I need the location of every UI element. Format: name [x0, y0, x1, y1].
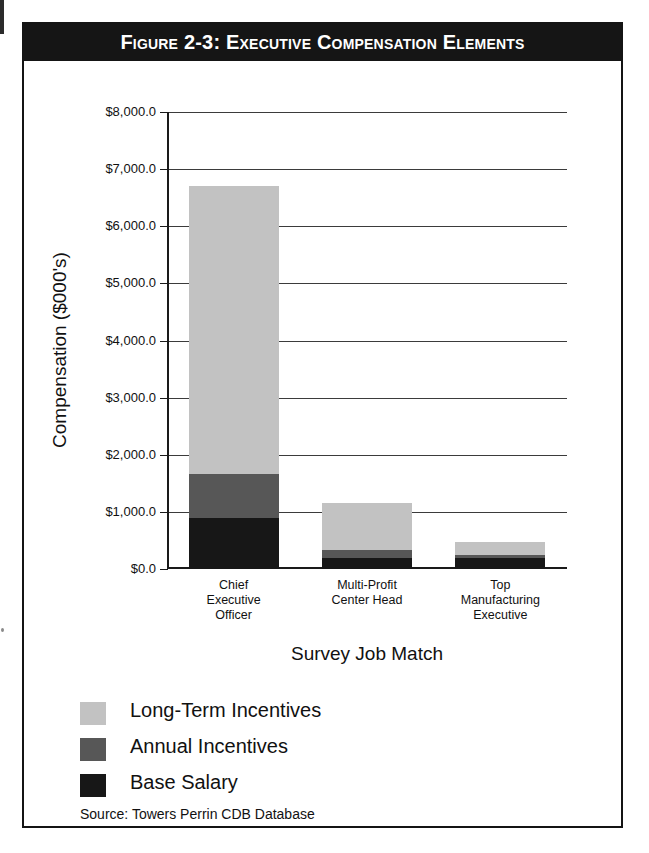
bar-segment	[189, 186, 279, 473]
legend-swatch	[80, 738, 106, 761]
chart-legend: Long-Term IncentivesAnnual IncentivesBas…	[80, 696, 580, 804]
legend-item: Base Salary	[80, 768, 580, 804]
bar-stack	[455, 112, 545, 569]
figure-container: Figure 2-3: Executive Compensation Eleme…	[22, 22, 623, 828]
y-axis-tick-label: $7,000.0	[60, 162, 156, 175]
bar-stack	[189, 112, 279, 569]
bar-segment	[455, 542, 545, 555]
y-axis-tick-label: $2,000.0	[60, 448, 156, 461]
y-axis-tick-label: $3,000.0	[60, 391, 156, 404]
source-note: Source: Towers Perrin CDB Database	[80, 806, 315, 822]
y-axis-tick-label: $0.0	[60, 562, 156, 575]
x-axis-title: Survey Job Match	[167, 643, 567, 665]
bar-segment	[189, 474, 279, 518]
y-axis-tick	[160, 569, 168, 570]
bar-stack	[322, 112, 412, 569]
y-axis-tick-label: $5,000.0	[60, 276, 156, 289]
y-axis-tick-label: $4,000.0	[60, 334, 156, 347]
y-axis-title: Compensation ($000's)	[49, 120, 71, 580]
bar-segment	[189, 518, 279, 569]
legend-swatch	[80, 774, 106, 797]
legend-item: Long-Term Incentives	[80, 696, 580, 732]
x-axis-category-label: ChiefExecutiveOfficer	[159, 578, 309, 623]
bar-segment	[455, 555, 545, 558]
legend-label: Long-Term Incentives	[130, 699, 321, 722]
legend-label: Annual Incentives	[130, 735, 288, 758]
y-axis-tick-label: $1,000.0	[60, 505, 156, 518]
legend-item: Annual Incentives	[80, 732, 580, 768]
x-axis-category-label: Multi-ProfitCenter Head	[292, 578, 442, 608]
bar-segment	[455, 558, 545, 569]
legend-swatch	[80, 702, 106, 725]
y-axis-tick-label: $6,000.0	[60, 219, 156, 232]
legend-label: Base Salary	[130, 771, 238, 794]
y-axis-tick-label: $8,000.0	[60, 105, 156, 118]
bar-segment	[322, 503, 412, 550]
x-axis-category-label: TopManufacturingExecutive	[425, 578, 575, 623]
bar-segment	[322, 558, 412, 569]
bar-segment	[322, 550, 412, 558]
